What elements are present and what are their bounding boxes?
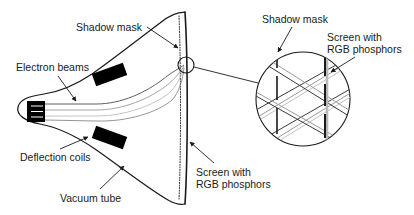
callout-leader-line <box>194 67 258 83</box>
crt-figure-svg: Shadow mask Electron beams Deflection co… <box>0 0 414 215</box>
deflection-coil-upper <box>92 63 127 87</box>
label-screen-rgb-center-line1: Screen with <box>196 166 251 178</box>
detail-screen-phosphors <box>325 50 327 150</box>
label-screen-rgb-detail-line1: Screen with <box>327 31 382 43</box>
label-deflection-coils: Deflection coils <box>20 151 91 163</box>
label-shadow-mask-detail: Shadow mask <box>262 13 329 25</box>
deflection-coil-lower <box>92 126 127 150</box>
deflection-coil-lower-block <box>92 126 127 150</box>
leader-electron-beams <box>58 76 76 101</box>
leader-vacuum-tube <box>100 166 124 189</box>
leader-screen-center <box>190 142 214 163</box>
leader-deflection-coils <box>60 137 88 149</box>
label-shadow-mask-left: Shadow mask <box>76 21 143 33</box>
label-electron-beams: Electron beams <box>16 61 89 73</box>
leader-shadow-mask-left <box>147 27 178 48</box>
label-screen-rgb-detail-line2: RGB phosphors <box>327 43 402 55</box>
crt-diagram: Shadow mask Electron beams Deflection co… <box>0 0 414 215</box>
detail-circle-magnified <box>256 48 352 155</box>
electron-gun <box>27 101 45 122</box>
leader-shadow-mask-detail <box>278 27 292 52</box>
detail-circle-outline <box>256 52 350 146</box>
deflection-coil-upper-block <box>92 63 127 87</box>
screen-face <box>185 12 187 204</box>
label-vacuum-tube: Vacuum tube <box>60 192 121 204</box>
label-screen-rgb-center-line2: RGB phosphors <box>196 178 271 190</box>
shadow-mask-dotted-line <box>179 16 181 200</box>
